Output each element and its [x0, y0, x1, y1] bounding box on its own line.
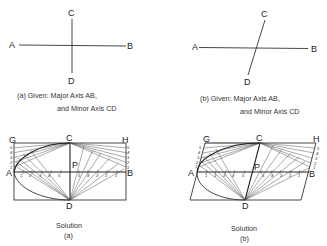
axis-num-3: 3	[223, 173, 226, 178]
label-p: P	[254, 162, 260, 172]
ellipse-upper-arc	[197, 143, 260, 172]
axis-num-2r: 2	[104, 173, 108, 178]
axis-num-5: 5	[242, 173, 245, 178]
axis-num-1: 1	[205, 173, 207, 178]
axis-num-5: 5	[58, 173, 61, 178]
label-c: C	[261, 9, 268, 19]
label-a: A	[9, 40, 15, 50]
label-g: G	[9, 135, 16, 145]
axis-num-2: 2	[213, 173, 217, 178]
label-a: A	[188, 168, 194, 178]
side-num-1: 1	[195, 164, 197, 169]
ellipse-lower-arc	[14, 172, 70, 200]
label-b: B	[127, 168, 133, 178]
major-axis-ab	[199, 48, 308, 49]
label-h: H	[313, 134, 320, 144]
major-axis-ab	[19, 45, 126, 46]
figure-a-given: A B C D (a) Given: Major Axis AB, and Mi…	[9, 8, 133, 113]
caption-solution-a-sub: (a)	[64, 231, 73, 240]
label-d: D	[244, 77, 251, 87]
solution-b: 1 2 3 4 5 5 4 3 2 1 5 4 3 2 1 5 4 3 2 1 …	[188, 133, 320, 243]
axis-num-1: 1	[20, 173, 22, 178]
label-b: B	[127, 41, 133, 51]
axis-num-5r: 5	[262, 173, 265, 178]
label-h: H	[122, 135, 129, 145]
label-c: C	[66, 133, 73, 143]
caption-a-line2: and Minor Axis CD	[57, 104, 117, 113]
axis-num-2r: 2	[288, 173, 292, 178]
label-g: G	[203, 134, 210, 144]
axis-num-1r: 1	[298, 173, 300, 178]
label-d: D	[66, 201, 73, 211]
axis-num-4r: 4	[87, 173, 90, 178]
minor-axis-cd	[248, 20, 265, 75]
caption-b-line1: (b) Given: Major Axis AB,	[200, 94, 280, 103]
axis-num-1r: 1	[115, 173, 117, 178]
label-b: B	[309, 169, 315, 179]
label-p: P	[72, 160, 78, 170]
caption-solution-b-sub: (b)	[240, 234, 249, 243]
label-b: B	[311, 44, 317, 54]
label-d: D	[242, 201, 249, 211]
label-c: C	[256, 133, 263, 143]
axis-num-3r: 3	[280, 173, 283, 178]
caption-b-line2: and Minor Axis CD	[240, 107, 300, 116]
solution-a: 1 2 3 4 5 5 4 3 2 1 5 4 3 2 1 5 4 3 2 1 …	[6, 133, 133, 240]
label-a: A	[192, 42, 198, 52]
caption-solution-a: Solution	[56, 221, 82, 230]
axis-num-4: 4	[232, 173, 235, 178]
figure-b-given: A B C D (b) Given: Major Axis AB, and Mi…	[192, 9, 317, 116]
caption-a-line1: (a) Given: Major Axis AB,	[17, 91, 97, 100]
label-d: D	[68, 76, 75, 86]
label-c: C	[68, 8, 75, 18]
axis-num-2: 2	[28, 173, 32, 178]
axis-num-3r: 3	[96, 173, 99, 178]
caption-solution-b: Solution	[231, 224, 257, 233]
label-a: A	[6, 168, 12, 178]
ellipse-construction-diagram: A B C D (a) Given: Major Axis AB, and Mi…	[0, 0, 327, 246]
ellipse-upper-arc	[14, 143, 70, 172]
